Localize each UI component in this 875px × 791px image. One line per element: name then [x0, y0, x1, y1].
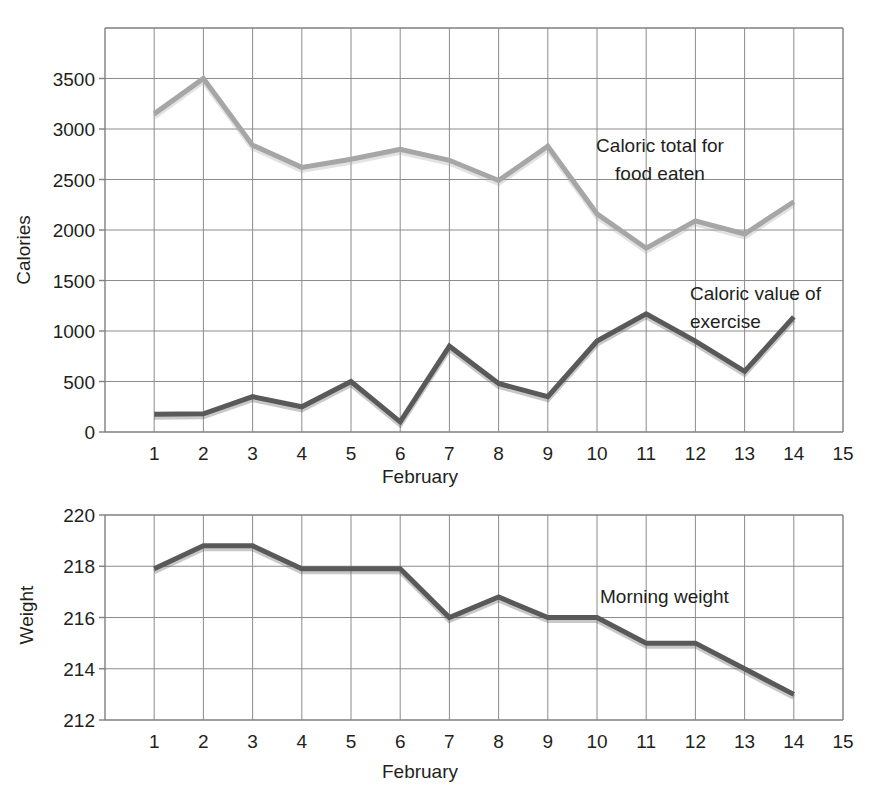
- series-shadow: [154, 317, 794, 425]
- x-tick-label: 13: [734, 731, 755, 752]
- x-tick-label: 6: [395, 731, 406, 752]
- y-tick-label: 220: [63, 505, 95, 526]
- calories-y-axis-title: Calories: [13, 215, 34, 285]
- figure-caption-stub: [38, 770, 45, 788]
- x-tick-label: 5: [346, 731, 357, 752]
- calories-chart-svg: 0500100015002000250030003500123456789101…: [0, 0, 875, 495]
- series-line: [154, 546, 794, 695]
- x-tick-label: 2: [198, 443, 209, 464]
- x-tick-label: 3: [247, 443, 258, 464]
- x-tick-label: 12: [685, 731, 706, 752]
- annotation-exercise-line-1: Caloric value of: [690, 283, 822, 304]
- y-tick-label: 218: [63, 556, 95, 577]
- annotation-exercise-line-2: exercise: [690, 311, 761, 332]
- two-panel-line-chart-figure: 0500100015002000250030003500123456789101…: [0, 0, 875, 791]
- calories-x-axis-title: February: [382, 466, 459, 487]
- x-tick-label: 10: [586, 443, 607, 464]
- x-tick-label: 7: [444, 443, 455, 464]
- y-tick-label: 2500: [53, 170, 95, 191]
- annotation-food-line-1: Caloric total for: [596, 135, 724, 156]
- x-tick-label: 13: [734, 443, 755, 464]
- x-tick-label: 11: [636, 443, 656, 464]
- x-tick-label: 8: [493, 443, 504, 464]
- weight-chart-panel: 212214216218220123456789101112131415 Wei…: [0, 495, 875, 791]
- calories-series-group: [154, 79, 794, 425]
- weight-y-axis-title: Weight: [16, 585, 37, 645]
- x-tick-label: 15: [832, 443, 853, 464]
- y-tick-label: 3500: [53, 69, 95, 90]
- x-tick-label: 9: [543, 731, 554, 752]
- weight-chart-svg: 212214216218220123456789101112131415 Wei…: [0, 495, 875, 791]
- x-tick-label: 9: [543, 443, 554, 464]
- weight-tick-labels: 212214216218220123456789101112131415: [63, 505, 853, 752]
- x-tick-label: 1: [149, 731, 160, 752]
- x-tick-label: 11: [636, 731, 656, 752]
- annotation-food-line-2: food eaten: [615, 163, 705, 184]
- y-tick-label: 1000: [53, 321, 95, 342]
- y-tick-label: 212: [63, 710, 95, 731]
- calories-tick-labels: 0500100015002000250030003500123456789101…: [53, 69, 854, 465]
- y-tick-label: 3000: [53, 119, 95, 140]
- y-tick-label: 2000: [53, 220, 95, 241]
- x-tick-label: 3: [247, 731, 258, 752]
- x-tick-label: 8: [493, 731, 504, 752]
- x-tick-label: 4: [297, 443, 308, 464]
- calories-chart-panel: 0500100015002000250030003500123456789101…: [0, 0, 875, 495]
- y-tick-label: 1500: [53, 271, 95, 292]
- y-tick-label: 214: [63, 659, 95, 680]
- x-tick-label: 2: [198, 731, 209, 752]
- y-tick-label: 0: [84, 422, 95, 443]
- x-tick-label: 7: [444, 731, 455, 752]
- x-tick-label: 14: [783, 731, 805, 752]
- y-tick-label: 500: [63, 372, 95, 393]
- x-tick-label: 4: [297, 731, 308, 752]
- weight-series-group: [154, 546, 794, 698]
- x-tick-label: 5: [346, 443, 357, 464]
- x-tick-label: 6: [395, 443, 406, 464]
- x-tick-label: 10: [586, 731, 607, 752]
- y-tick-label: 216: [63, 608, 95, 629]
- x-tick-label: 1: [149, 443, 160, 464]
- x-tick-label: 15: [832, 731, 853, 752]
- annotation-morning-weight: Morning weight: [600, 586, 730, 607]
- x-tick-label: 14: [783, 443, 805, 464]
- x-tick-label: 12: [685, 443, 706, 464]
- series-shadow: [154, 549, 794, 698]
- weight-x-axis-title: February: [382, 761, 459, 782]
